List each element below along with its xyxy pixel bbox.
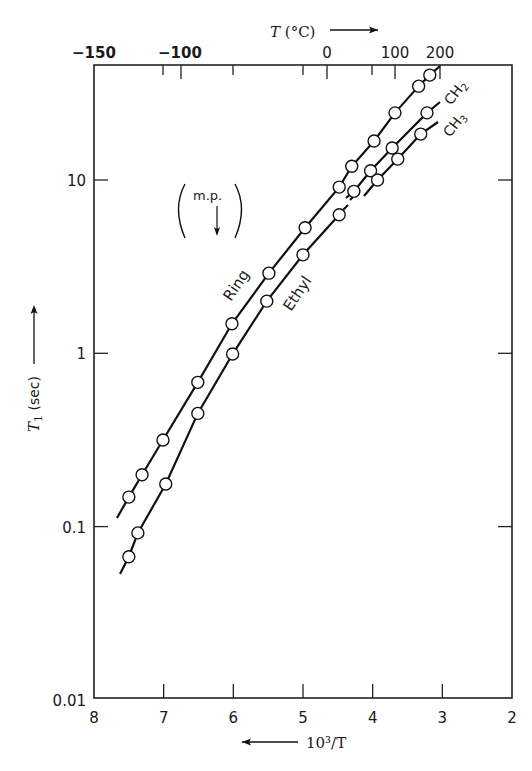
ch2-label: CH2 xyxy=(441,77,472,109)
top-tick-label: −150 xyxy=(72,44,116,62)
x-tick-label: 3 xyxy=(438,709,448,727)
data-point-ethyl xyxy=(132,527,144,539)
data-point-ring xyxy=(299,222,311,234)
y-tick-label: 10 xyxy=(67,172,86,190)
top-axis-unit: (°C) xyxy=(280,23,315,41)
y-tick-label: 0.01 xyxy=(53,692,86,710)
data-point-ring xyxy=(123,491,135,503)
data-point-ring xyxy=(413,80,425,92)
x-tick-label: 7 xyxy=(159,709,169,727)
data-point-ethyl xyxy=(297,249,309,261)
ring-curve xyxy=(117,66,440,518)
svg-text:T1 (sec): T1 (sec) xyxy=(25,376,45,432)
data-point-ethyl xyxy=(333,209,345,221)
left-paren-icon xyxy=(179,184,186,238)
axes: 87654320.010.1110−150−1000100200 xyxy=(53,44,517,727)
data-point-ch3 xyxy=(372,174,384,186)
top-axis-title: T (°C) xyxy=(270,23,315,41)
data-point-ring xyxy=(333,181,345,193)
y-tick-label: 1 xyxy=(76,345,86,363)
data-point-ethyl xyxy=(227,348,239,360)
data-point-ch3 xyxy=(415,128,427,140)
data-point-ch2 xyxy=(348,185,360,197)
ch3-label: CH3 xyxy=(440,109,471,141)
x-tick-label: 8 xyxy=(89,709,99,727)
bottom-axis-title: 10³/T xyxy=(306,734,346,752)
ethyl-curve xyxy=(120,215,339,574)
top-tick-label: −100 xyxy=(158,44,202,62)
data-point-ch2 xyxy=(386,142,398,154)
x-tick-label: 2 xyxy=(507,709,517,727)
data-point-ethyl xyxy=(160,478,172,490)
top-axis-arrow-icon xyxy=(330,27,378,34)
data-point-ring xyxy=(226,318,238,330)
data-point-ethyl xyxy=(123,551,135,563)
top-tick-label: 100 xyxy=(381,44,410,62)
data-point-ethyl xyxy=(261,295,273,307)
data-point-ch2 xyxy=(421,107,433,119)
x-tick-label: 6 xyxy=(229,709,239,727)
melting-point-annotation: m.p. xyxy=(179,184,242,238)
data-point-ring xyxy=(192,376,204,388)
plot-frame xyxy=(94,65,512,698)
top-tick-label: 0 xyxy=(322,44,332,62)
svg-text:m.p.: m.p. xyxy=(193,188,222,203)
chart-figure: 87654320.010.1110−150−1000100200 T (°C) … xyxy=(0,0,532,771)
x-tick-label: 4 xyxy=(368,709,378,727)
data-point-ring xyxy=(263,267,275,279)
data-point-ch3 xyxy=(392,153,404,165)
data-point-ring xyxy=(368,135,380,147)
data-point-ring xyxy=(424,69,436,81)
x-tick-label: 5 xyxy=(298,709,308,727)
data-point-ethyl xyxy=(192,407,204,419)
ring-label: Ring xyxy=(219,266,253,304)
bottom-axis-arrow-icon xyxy=(242,739,298,746)
data-markers xyxy=(123,69,436,563)
right-paren-icon xyxy=(235,184,242,238)
data-point-ring xyxy=(136,469,148,481)
data-point-ring xyxy=(346,160,358,172)
y-tick-label: 0.1 xyxy=(62,519,86,537)
y-axis-title: T1 (sec) xyxy=(25,305,45,432)
data-point-ring xyxy=(389,107,401,119)
data-point-ring xyxy=(157,434,169,446)
top-tick-label: 200 xyxy=(426,44,455,62)
